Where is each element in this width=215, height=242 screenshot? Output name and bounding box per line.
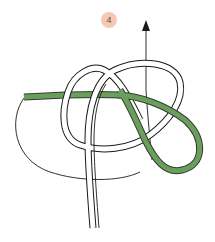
guide-line bbox=[16, 98, 140, 180]
step-number-badge: 4 bbox=[101, 12, 117, 28]
knot-diagram: 4 bbox=[0, 0, 215, 242]
arrow-up-icon bbox=[142, 20, 150, 31]
rope-standing-tail bbox=[94, 84, 106, 228]
step-number: 4 bbox=[106, 15, 111, 25]
knot-illustration bbox=[0, 0, 215, 242]
